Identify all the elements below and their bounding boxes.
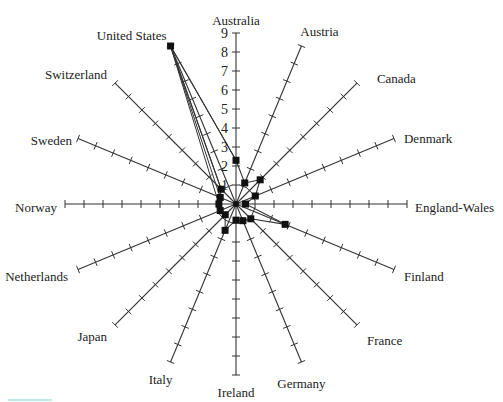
connector-line bbox=[171, 46, 221, 197]
axis-label: France bbox=[367, 333, 403, 348]
radar-chart: AustraliaAustriaCanadaDenmarkEngland-Wal… bbox=[0, 0, 503, 402]
axis-label: Italy bbox=[149, 372, 173, 387]
tick-label: 2 bbox=[221, 159, 228, 174]
axis-label: Finland bbox=[404, 269, 444, 284]
axis-japan bbox=[115, 204, 236, 325]
axis-sweden bbox=[78, 139, 236, 204]
tick-labels: 123456789 bbox=[221, 26, 228, 193]
axis-label: Australia bbox=[212, 13, 260, 28]
axis-label: Japan bbox=[77, 329, 107, 344]
axis-finland bbox=[236, 204, 394, 269]
axis-label: Ireland bbox=[218, 385, 255, 400]
axis-label: Austria bbox=[300, 24, 339, 39]
data-point-united-states bbox=[167, 43, 174, 50]
data-point-italy bbox=[222, 227, 229, 234]
axis-label: Netherlands bbox=[5, 269, 68, 284]
axis-label: Switzerland bbox=[45, 67, 108, 82]
data-point-australia bbox=[233, 157, 240, 164]
tick-label: 1 bbox=[221, 178, 228, 193]
axis-canada bbox=[236, 83, 357, 204]
connector-line bbox=[171, 46, 222, 189]
data-point-netherlands bbox=[217, 207, 224, 214]
data-point-denmark bbox=[252, 193, 259, 200]
data-point-norway bbox=[215, 201, 222, 208]
data-point-ireland bbox=[233, 217, 240, 224]
tick-label: 8 bbox=[221, 45, 228, 60]
axis-label: England-Wales bbox=[415, 200, 494, 215]
bottom-artifact-line bbox=[8, 399, 52, 401]
axis-label: Sweden bbox=[31, 133, 73, 148]
axis-germany bbox=[236, 204, 301, 362]
data-point-germany bbox=[239, 217, 246, 224]
tick-label: 9 bbox=[221, 26, 228, 41]
center-point bbox=[233, 201, 239, 207]
tick-label: 5 bbox=[221, 102, 228, 117]
data-point-austria bbox=[241, 179, 248, 186]
axis-label: Germany bbox=[277, 376, 326, 391]
axis-netherlands bbox=[78, 204, 236, 269]
axis-label: Canada bbox=[377, 71, 416, 86]
data-point-france bbox=[247, 215, 254, 222]
data-point-canada bbox=[257, 176, 264, 183]
tick-label: 4 bbox=[221, 121, 228, 136]
tick-label: 3 bbox=[221, 140, 228, 155]
tick-label: 6 bbox=[221, 83, 228, 98]
axis-label: Denmark bbox=[404, 131, 453, 146]
axis-label: Norway bbox=[15, 200, 57, 215]
axis-denmark bbox=[236, 139, 394, 204]
data-point-finland bbox=[282, 221, 289, 228]
tick-label: 7 bbox=[221, 64, 228, 79]
axis-label: United States bbox=[97, 28, 167, 43]
data-point-sweden bbox=[217, 194, 224, 201]
data-point-england-wales bbox=[242, 201, 249, 208]
